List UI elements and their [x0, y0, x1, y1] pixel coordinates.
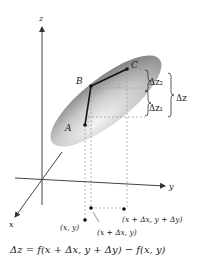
surface	[38, 41, 173, 161]
brace-dz	[168, 73, 174, 117]
label-xy: (x, y)	[60, 223, 79, 232]
label-a: A	[64, 123, 72, 133]
y-axis-label: y	[168, 182, 174, 191]
label-dz1: Δz₁	[149, 103, 163, 113]
label-c: C	[131, 60, 138, 70]
y-axis	[15, 178, 165, 186]
formula: Δz = f(x + Δx, y + Δy) − f(x, y)	[9, 244, 166, 255]
label-xdx-ydy: (x + Δx, y + Δy)	[122, 215, 183, 224]
x-axis-label: x	[9, 220, 14, 229]
label-b: B	[75, 76, 83, 86]
base-point-xy	[83, 218, 87, 222]
point-b	[89, 84, 93, 88]
base-point-xdx-ydy	[122, 207, 126, 211]
x-axis	[15, 152, 62, 217]
label-xdx-y: (x + Δx, y)	[97, 228, 137, 237]
base-point-xdx-y	[89, 206, 93, 210]
total-differential-diagram: z A B C Δz₂ Δz₁ Δz y x (x, y) (x + Δx, y…	[0, 0, 207, 258]
leader-line	[93, 212, 99, 222]
label-dz2: Δz₂	[149, 77, 163, 87]
label-dz: Δz	[176, 93, 187, 103]
point-a	[83, 123, 87, 127]
z-axis-label: z	[38, 14, 44, 23]
point-c	[125, 67, 129, 71]
